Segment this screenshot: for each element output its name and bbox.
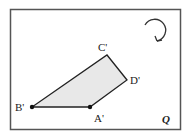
- label-b: B': [15, 101, 24, 113]
- point-a: [88, 105, 92, 109]
- region-label: Q: [162, 113, 170, 125]
- label-c: C': [98, 41, 107, 53]
- label-d: D': [130, 74, 140, 86]
- diagram-canvas: C' D' B' A' Q: [0, 0, 187, 137]
- point-b: [30, 105, 34, 109]
- label-a: A': [94, 112, 104, 124]
